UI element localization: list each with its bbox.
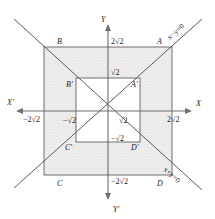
vertex-label-D: D bbox=[156, 179, 163, 188]
axis-label-x-positive: X bbox=[195, 99, 202, 108]
y-axis-arrow-up-icon bbox=[105, 24, 111, 31]
vertex-label-B-prime: B' bbox=[66, 80, 73, 89]
vertex-label-D-prime: D' bbox=[130, 143, 139, 152]
axis-label-y-negative: Y' bbox=[113, 205, 119, 214]
tick-label-y-positive-inner: √2 bbox=[111, 68, 119, 77]
tick-label-y-positive-outer: 2√2 bbox=[111, 37, 123, 46]
tick-label-x-negative-inner: −√2 bbox=[63, 116, 76, 125]
x-axis-arrow-right-icon bbox=[185, 108, 192, 114]
tick-label-x-positive-outer: 2√2 bbox=[167, 115, 179, 124]
axis-label-y-positive: Y bbox=[101, 15, 107, 24]
tick-label-x-positive-inner: √2 bbox=[119, 116, 127, 125]
tick-label-y-negative-inner: −√2 bbox=[111, 134, 124, 143]
vertex-label-C: C bbox=[57, 179, 63, 188]
tick-label-x-negative-outer: −2√2 bbox=[23, 115, 40, 124]
vertex-label-A: A bbox=[156, 37, 162, 46]
axis-label-x-negative: X' bbox=[6, 98, 14, 107]
geometry-figure: X' X Y Y' −2√2 2√2 2√2 −2√2 √2 −√2 √2 −√… bbox=[0, 0, 215, 219]
vertex-label-A-prime: A' bbox=[130, 80, 138, 89]
vertex-label-B: B bbox=[57, 37, 62, 46]
equation-label-x-minus-y: x−y=0 bbox=[165, 21, 186, 41]
tick-label-y-negative-outer: −2√2 bbox=[111, 177, 128, 186]
y-axis-arrow-down-icon bbox=[105, 193, 111, 200]
x-axis-arrow-left-icon bbox=[16, 108, 23, 114]
vertex-label-C-prime: C' bbox=[65, 143, 72, 152]
coordinate-diagram: X' X Y Y' −2√2 2√2 2√2 −2√2 √2 −√2 √2 −√… bbox=[0, 0, 215, 219]
